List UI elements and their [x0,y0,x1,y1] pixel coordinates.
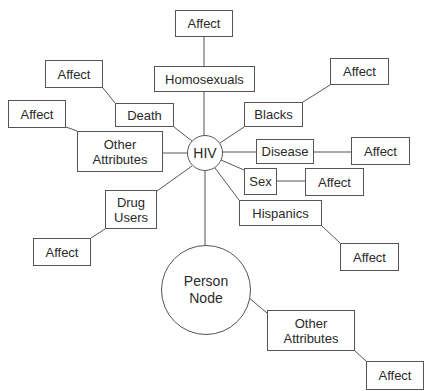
other-attributes-left-node: Other Attributes [77,131,163,172]
hiv-center-node: HIV [187,135,223,171]
death-node: Death [115,103,174,127]
blacks-node: Blacks [244,102,303,127]
affect-node-homosexuals: Affect [175,10,233,37]
affect-node-drug-users: Affect [33,238,91,266]
sex-node: Sex [244,168,277,195]
person-node: Person Node [161,245,251,335]
affect-node-other-attributes-bottom: Affect [366,361,424,390]
hiv-concept-diagram: Affect Homosexuals Affect Death Affect O… [0,0,425,391]
other-attributes-bottom-node: Other Attributes [267,310,355,351]
hispanics-node: Hispanics [239,200,322,226]
disease-node: Disease [256,139,314,164]
affect-node-disease: Affect [351,137,410,165]
affect-node-blacks: Affect [330,58,389,85]
affect-node-sex: Affect [305,168,364,196]
drug-users-node: Drug Users [105,190,157,229]
affect-node-death: Affect [45,60,103,88]
homosexuals-node: Homosexuals [154,66,255,92]
affect-node-hispanics: Affect [340,243,399,271]
affect-node-other-attributes-left: Affect [8,100,66,128]
